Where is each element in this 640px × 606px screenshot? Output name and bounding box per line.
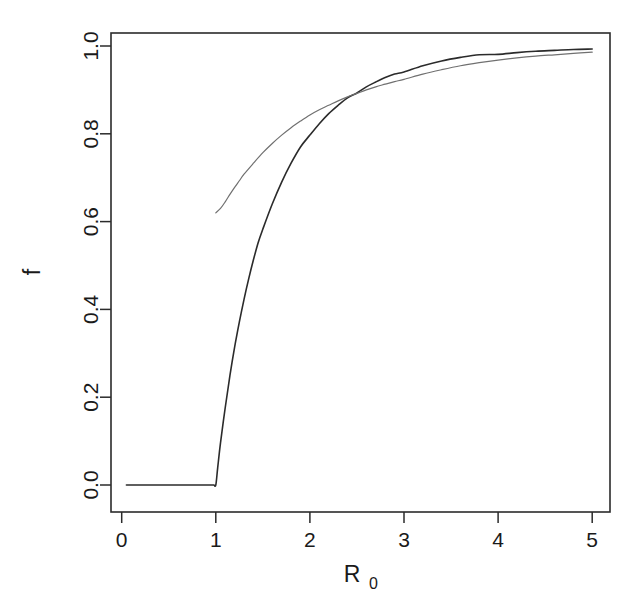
x-axis-title-base: R: [344, 561, 361, 587]
y-tick-label-0.8: 0.8: [79, 119, 102, 148]
x-tick-label-4: 4: [492, 528, 504, 551]
y-tick-label-0.2: 0.2: [79, 383, 102, 412]
y-tick-label-0.4: 0.4: [79, 294, 102, 324]
y-tick-label-1.0: 1.0: [79, 31, 102, 60]
x-axis-title-subscript: 0: [369, 575, 378, 592]
x-tick-label-5: 5: [586, 528, 598, 551]
chart-page: 012345 0.00.20.40.60.81.0 f R 0: [0, 0, 640, 606]
chart-canvas: 012345 0.00.20.40.60.81.0 f R 0: [0, 0, 640, 606]
y-tick-label-0.0: 0.0: [79, 470, 102, 499]
x-tick-label-1: 1: [210, 528, 222, 551]
x-tick-label-2: 2: [304, 528, 316, 551]
x-tick-label-0: 0: [116, 528, 128, 551]
y-tick-label-0.6: 0.6: [79, 207, 102, 236]
x-tick-label-3: 3: [398, 528, 410, 551]
y-axis-title: f: [19, 268, 45, 275]
